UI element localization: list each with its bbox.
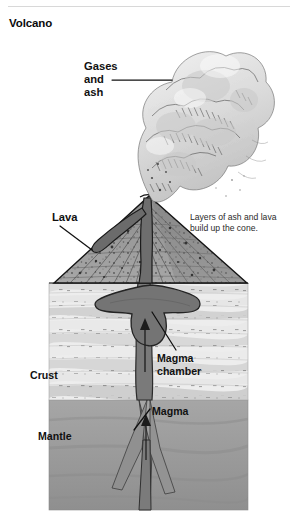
caption-line1: Layers of ash and lava — [190, 212, 277, 222]
diagram-page: Volcano — [0, 0, 297, 522]
volcano-cross-section-figure: Gases and ash Lava Magma chamber Crust M… — [0, 0, 297, 522]
label-gases-and-ash-line1: Gases — [84, 60, 118, 72]
caption-line2: build up the cone. — [190, 223, 258, 233]
volcano-cone — [54, 195, 247, 286]
label-magma-chamber-line1: Magma — [157, 352, 194, 364]
label-crust: Crust — [30, 369, 58, 381]
label-magma: Magma — [152, 405, 189, 417]
label-magma-chamber-line2: chamber — [157, 365, 201, 377]
lava-leader — [60, 226, 92, 250]
label-gases-and-ash-line2: and — [84, 73, 104, 85]
label-lava: Lava — [52, 211, 78, 223]
label-mantle: Mantle — [38, 430, 72, 442]
label-gases-and-ash-line3: ash — [84, 86, 103, 98]
ash-plume — [138, 52, 274, 202]
